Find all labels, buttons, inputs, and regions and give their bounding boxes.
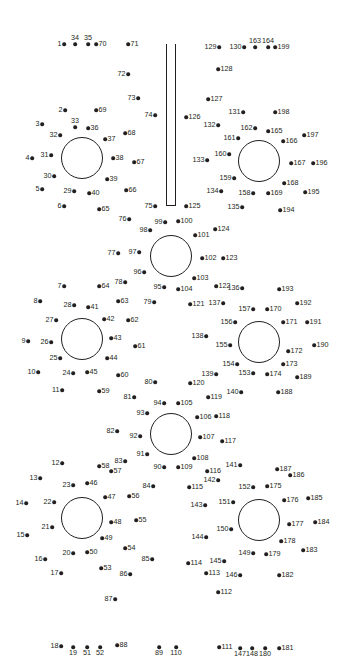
dot-150[interactable]	[229, 527, 233, 531]
dot-118[interactable]	[214, 414, 218, 418]
dot-192[interactable]	[295, 301, 299, 305]
dot-146[interactable]	[238, 573, 242, 577]
dot-87[interactable]	[113, 597, 117, 601]
dot-197[interactable]	[302, 133, 306, 137]
dot-79[interactable]	[152, 300, 156, 304]
dot-10[interactable]	[36, 370, 40, 374]
dot-49[interactable]	[100, 536, 104, 540]
dot-184[interactable]	[313, 520, 317, 524]
dot-50[interactable]	[85, 550, 89, 554]
dot-104[interactable]	[176, 287, 180, 291]
dot-41[interactable]	[86, 305, 90, 309]
dot-63[interactable]	[116, 299, 120, 303]
dot-175[interactable]	[265, 484, 269, 488]
dot-99[interactable]	[163, 220, 167, 224]
dot-179[interactable]	[264, 552, 268, 556]
dot-158[interactable]	[251, 191, 255, 195]
dot-47[interactable]	[103, 495, 107, 499]
dot-144[interactable]	[204, 535, 208, 539]
dot-98[interactable]	[148, 228, 152, 232]
dot-59[interactable]	[97, 389, 101, 393]
dot-1[interactable]	[62, 42, 66, 46]
dot-182[interactable]	[277, 573, 281, 577]
dot-29[interactable]	[72, 189, 76, 193]
dot-35[interactable]	[86, 42, 90, 46]
dot-139[interactable]	[214, 372, 218, 376]
dot-177[interactable]	[287, 522, 291, 526]
dot-157[interactable]	[251, 307, 255, 311]
dot-134[interactable]	[219, 189, 223, 193]
dot-64[interactable]	[97, 284, 101, 288]
dot-163[interactable]	[253, 45, 257, 49]
dot-165[interactable]	[266, 129, 270, 133]
dot-17[interactable]	[59, 571, 63, 575]
dot-133[interactable]	[205, 158, 209, 162]
dot-48[interactable]	[109, 520, 113, 524]
dot-25[interactable]	[58, 356, 62, 360]
dot-174[interactable]	[265, 372, 269, 376]
dot-33[interactable]	[73, 125, 77, 129]
dot-178[interactable]	[279, 539, 283, 543]
dot-122[interactable]	[214, 284, 218, 288]
dot-113[interactable]	[204, 571, 208, 575]
dot-31[interactable]	[49, 153, 53, 157]
dot-44[interactable]	[105, 356, 109, 360]
dot-22[interactable]	[52, 500, 56, 504]
dot-141[interactable]	[238, 463, 242, 467]
dot-100[interactable]	[176, 219, 180, 223]
dot-75[interactable]	[153, 204, 157, 208]
dot-97[interactable]	[137, 250, 141, 254]
dot-38[interactable]	[111, 156, 115, 160]
dot-195[interactable]	[303, 190, 307, 194]
dot-16[interactable]	[43, 557, 47, 561]
dot-193[interactable]	[277, 287, 281, 291]
dot-183[interactable]	[301, 548, 305, 552]
dot-149[interactable]	[251, 551, 255, 555]
dot-168[interactable]	[282, 181, 286, 185]
dot-61[interactable]	[133, 344, 137, 348]
dot-15[interactable]	[25, 533, 29, 537]
dot-190[interactable]	[312, 343, 316, 347]
dot-73[interactable]	[136, 96, 140, 100]
dot-74[interactable]	[153, 113, 157, 117]
dot-94[interactable]	[162, 401, 166, 405]
dot-67[interactable]	[132, 160, 136, 164]
dot-155[interactable]	[228, 343, 232, 347]
dot-4[interactable]	[30, 156, 34, 160]
dot-152[interactable]	[251, 485, 255, 489]
dot-43[interactable]	[109, 336, 113, 340]
dot-58[interactable]	[97, 464, 101, 468]
dot-76[interactable]	[127, 217, 131, 221]
dot-131[interactable]	[241, 110, 245, 114]
dot-126[interactable]	[184, 115, 188, 119]
dot-26[interactable]	[49, 340, 53, 344]
dot-62[interactable]	[126, 318, 130, 322]
dot-166[interactable]	[281, 139, 285, 143]
dot-85[interactable]	[150, 557, 154, 561]
dot-171[interactable]	[281, 320, 285, 324]
dot-167[interactable]	[289, 161, 293, 165]
dot-138[interactable]	[204, 334, 208, 338]
dot-91[interactable]	[145, 452, 149, 456]
dot-154[interactable]	[235, 362, 239, 366]
dot-54[interactable]	[123, 546, 127, 550]
dot-129[interactable]	[217, 45, 221, 49]
dot-132[interactable]	[216, 123, 220, 127]
dot-125[interactable]	[184, 204, 188, 208]
dot-120[interactable]	[188, 381, 192, 385]
dot-103[interactable]	[192, 276, 196, 280]
dot-8[interactable]	[38, 299, 42, 303]
dot-186[interactable]	[288, 473, 292, 477]
dot-82[interactable]	[115, 429, 119, 433]
dot-127[interactable]	[206, 97, 210, 101]
dot-70[interactable]	[94, 42, 98, 46]
dot-159[interactable]	[232, 176, 236, 180]
dot-14[interactable]	[24, 501, 28, 505]
dot-137[interactable]	[221, 301, 225, 305]
dot-57[interactable]	[109, 469, 113, 473]
dot-84[interactable]	[151, 484, 155, 488]
dot-2[interactable]	[63, 108, 67, 112]
dot-13[interactable]	[38, 476, 42, 480]
dot-169[interactable]	[266, 191, 270, 195]
dot-11[interactable]	[60, 388, 64, 392]
